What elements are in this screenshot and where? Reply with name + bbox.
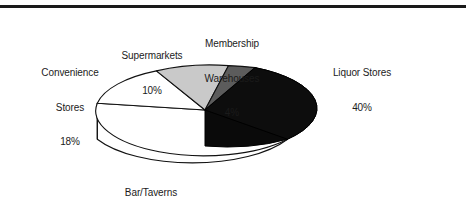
slice-label-line1: Bar/Taverns xyxy=(96,187,206,199)
slice-label-line1: Membership xyxy=(186,38,278,50)
slice-label-bar-taverns: Bar/Taverns 28% xyxy=(96,164,206,202)
slice-label-line1: Liquor Stores xyxy=(310,67,414,79)
slice-label-membership-warehouses: Membership Warehouses 4% xyxy=(186,15,278,142)
chart-canvas: Convenience Stores 18% Supermarkets 10% … xyxy=(0,0,466,202)
slice-value-label: 40% xyxy=(310,102,414,114)
slice-label-liquor-stores: Liquor Stores 40% xyxy=(310,44,414,136)
slice-value-label: 4% xyxy=(186,107,278,119)
slice-label-line2: Warehouses xyxy=(186,73,278,85)
slice-value-label: 18% xyxy=(22,136,118,148)
